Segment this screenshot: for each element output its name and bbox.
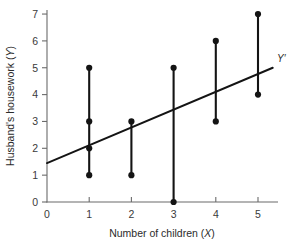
data-point [213,38,219,44]
data-point [86,172,92,178]
x-axis-title: Number of children (X) [109,227,215,239]
x-tick-label: 1 [86,208,92,220]
x-axis-ticks: 012345 [44,197,261,220]
y-tick-label: 7 [32,8,38,20]
x-tick-label: 2 [128,208,134,220]
data-point [213,118,219,124]
y-axis-title-close: ) [4,46,16,50]
data-point [171,199,177,205]
x-axis-title-text: Number of children ( [109,227,205,239]
y-tick-label: 4 [32,88,38,100]
axes-group [47,10,279,203]
x-tick-label: 5 [255,208,261,220]
y-tick-label: 3 [32,115,38,127]
x-tick-label: 4 [213,208,219,220]
y-tick-label: 5 [32,62,38,74]
y-tick-label: 1 [32,169,38,181]
data-point [86,118,92,124]
y-axis-ticks: 01234567 [32,8,47,208]
y-tick-label: 0 [32,196,38,208]
y-tick-label: 2 [32,142,38,154]
y-axis-title: Husband's housework (Y) [4,46,16,166]
data-point [171,65,177,71]
scatter-plot-figure: 01234567 012345 Y′ Number of children (X… [0,0,297,251]
chart-canvas: 01234567 012345 Y′ Number of children (X… [0,0,297,251]
y-tick-label: 6 [32,35,38,47]
data-point [255,92,261,98]
data-point [86,65,92,71]
x-axis-title-close: ) [211,227,215,239]
x-tick-label: 0 [44,208,50,220]
y-axis-title-text: Husband's housework ( [4,56,16,166]
regression-line [47,68,273,163]
data-stems [89,14,258,202]
data-point [128,172,134,178]
data-point [128,118,134,124]
regression-group: Y′ [47,53,287,163]
regression-line-label: Y′ [277,53,287,64]
data-point [255,11,261,17]
x-tick-label: 3 [171,208,177,220]
